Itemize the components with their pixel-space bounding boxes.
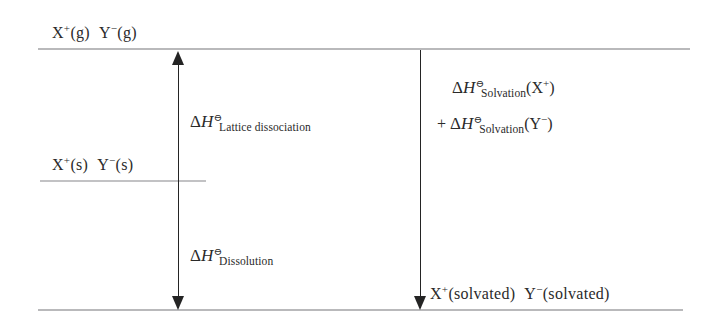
solvation-cation-charge: +	[543, 77, 549, 89]
anion-state-gas: (g)	[117, 24, 137, 41]
enthalpy-subscript-solvation-anion: Solvation	[479, 123, 524, 135]
anion-symbol-gas: Y	[99, 24, 111, 41]
energy-level-line-solvated-ions	[38, 309, 683, 311]
enthalpy-symbol-solvation-cation: H	[463, 78, 475, 97]
anion-symbol-solvated: Y	[524, 285, 536, 302]
cation-symbol-solvated: X	[430, 285, 442, 302]
anion-state-solid: (s)	[116, 156, 134, 173]
anion-symbol-solid: Y	[97, 156, 109, 173]
energy-level-line-gaseous-ions	[38, 48, 690, 50]
enthalpy-subscript-lattice: Lattice dissociation	[219, 121, 311, 133]
cation-state-gas: (g)	[70, 24, 90, 41]
solvation-anion-argument: (Y−)	[524, 115, 552, 132]
enthalpy-label-dissolution: ΔH⊖Dissolution	[190, 246, 273, 266]
energy-level-line-solid-lattice	[40, 180, 206, 182]
enthalpy-symbol-lattice: H	[201, 112, 213, 131]
solvation-anion-species: Y	[529, 115, 541, 132]
delta-symbol-dissolution: Δ	[190, 246, 201, 265]
enthalpy-symbol-solvation-anion: H	[461, 114, 473, 133]
cation-state-solid: (s)	[70, 156, 88, 173]
delta-symbol-solvation-anion: Δ	[450, 114, 461, 133]
plus-sign-solvation-anion: +	[437, 115, 446, 132]
species-label-solvated-ions: X+(solvated)Y−(solvated)	[430, 285, 610, 303]
delta-symbol-lattice: Δ	[190, 112, 201, 131]
solvation-cation-species: X	[531, 79, 543, 96]
cation-symbol-gas: X	[52, 24, 64, 41]
arrow-head-down-dissolution	[172, 296, 184, 310]
anion-state-solvated: (solvated)	[543, 285, 610, 302]
enthalpy-label-solvation-anion: +ΔH⊖Solvation(Y−)	[437, 114, 553, 134]
enthalpy-symbol-dissolution: H	[201, 246, 213, 265]
enthalpy-subscript-dissolution: Dissolution	[219, 255, 273, 267]
solvation-anion-charge: −	[541, 113, 547, 125]
arrow-head-down-solvation	[414, 296, 426, 310]
species-label-gaseous-ions: X+(g)Y−(g)	[52, 24, 137, 42]
enthalpy-label-lattice-dissociation: ΔH⊖Lattice dissociation	[190, 112, 311, 132]
cation-state-solvated: (solvated)	[448, 285, 515, 302]
enthalpy-level-diagram: X+(g)Y−(g) X+(s)Y−(s) X+(solvated)Y−(sol…	[0, 0, 708, 324]
enthalpy-label-solvation-cation: ΔH⊖Solvation(X+)	[452, 78, 555, 98]
cation-symbol-solid: X	[52, 156, 64, 173]
species-label-solid-lattice: X+(s)Y−(s)	[52, 156, 133, 174]
solvation-cation-argument: (X+)	[526, 79, 554, 96]
arrow-shaft-lattice-dissolution	[178, 54, 180, 308]
arrow-shaft-solvation	[420, 50, 422, 308]
delta-symbol-solvation-cation: Δ	[452, 78, 463, 97]
arrow-head-up-lattice-dissociation	[172, 51, 184, 65]
enthalpy-subscript-solvation-cation: Solvation	[481, 87, 526, 99]
